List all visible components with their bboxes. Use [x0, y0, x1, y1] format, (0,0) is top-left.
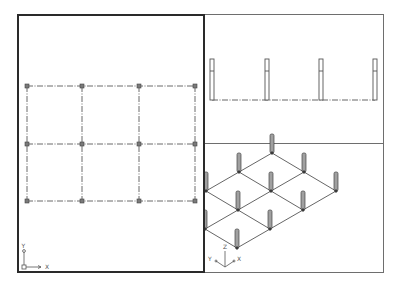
viewport-iso-3d[interactable]: Z Y X — [204, 143, 384, 273]
ucs-x-label-iso: X — [237, 255, 241, 262]
viewport-plan-top[interactable]: Y X — [17, 14, 205, 273]
ucs-y-label-iso: Y — [207, 255, 212, 262]
iso-columns: Z Y X — [205, 144, 385, 274]
ucs-y-label: Y — [21, 242, 26, 249]
plan-grid-drawing: Y X — [19, 16, 207, 275]
ucs-x-label: X — [45, 263, 49, 270]
ucs-z-label: Z — [223, 243, 227, 250]
viewport-elevation-front[interactable] — [204, 14, 384, 144]
elevation-columns — [210, 59, 377, 100]
elevation-drawing — [205, 15, 385, 145]
ucs-icon: Y X — [21, 242, 50, 270]
